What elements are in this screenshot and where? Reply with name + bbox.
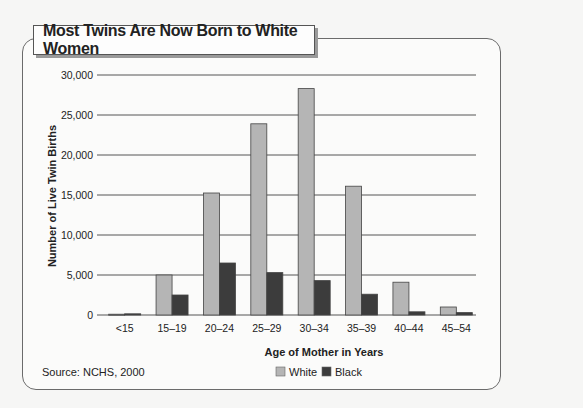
bar-black — [314, 281, 330, 315]
bar-black — [362, 294, 378, 315]
legend: WhiteBlack — [276, 366, 362, 378]
bar-white — [298, 89, 314, 315]
legend-item-white: White — [276, 366, 317, 378]
x-tick-label: 30–34 — [300, 322, 329, 334]
bars — [109, 89, 473, 316]
bar-white — [346, 186, 362, 315]
x-tick-label: <15 — [116, 322, 134, 334]
bar-white — [393, 282, 409, 315]
x-tick-labels: <1515–1920–2425–2930–3435–3940–4445–54 — [116, 322, 471, 334]
bar-black — [125, 314, 141, 315]
chart-svg: 05,00010,00015,00020,00025,00030,000 <15… — [0, 0, 583, 408]
bar-black — [409, 312, 425, 315]
bar-white — [251, 124, 267, 315]
bar-black — [267, 273, 283, 315]
x-tick-label: 35–39 — [347, 322, 376, 334]
bar-white — [156, 275, 172, 315]
bar-black — [456, 313, 472, 315]
y-tick-label: 20,000 — [61, 149, 93, 161]
gridlines — [97, 75, 476, 315]
x-tick-label: 25–29 — [252, 322, 281, 334]
bar-white — [440, 307, 456, 315]
bar-black — [219, 263, 235, 315]
y-tick-label: 0 — [87, 309, 93, 321]
y-tick-label: 15,000 — [61, 189, 93, 201]
x-tick-label: 15–19 — [157, 322, 186, 334]
bar-white — [203, 193, 219, 315]
y-tick-labels: 05,00010,00015,00020,00025,00030,000 — [61, 69, 93, 321]
y-axis-title: Number of Live Twin Births — [46, 125, 58, 267]
y-tick-label: 10,000 — [61, 229, 93, 241]
legend-swatch — [276, 367, 285, 376]
x-tick-label: 45–54 — [442, 322, 471, 334]
legend-swatch — [322, 367, 331, 376]
y-tick-label: 30,000 — [61, 69, 93, 81]
x-tick-label: 40–44 — [394, 322, 423, 334]
x-tick-label: 20–24 — [205, 322, 234, 334]
bar-black — [172, 295, 188, 315]
y-tick-label: 25,000 — [61, 109, 93, 121]
chart-title-box: Most Twins Are Now Born to White Women — [33, 25, 315, 55]
legend-label: Black — [335, 366, 362, 378]
y-tick-label: 5,000 — [67, 269, 93, 281]
chart-title: Most Twins Are Now Born to White Women — [34, 22, 314, 58]
legend-item-black: Black — [322, 366, 362, 378]
x-axis-title: Age of Mother in Years — [265, 346, 384, 358]
legend-label: White — [289, 366, 317, 378]
bar-white — [109, 314, 125, 315]
source-note: Source: NCHS, 2000 — [42, 366, 145, 378]
